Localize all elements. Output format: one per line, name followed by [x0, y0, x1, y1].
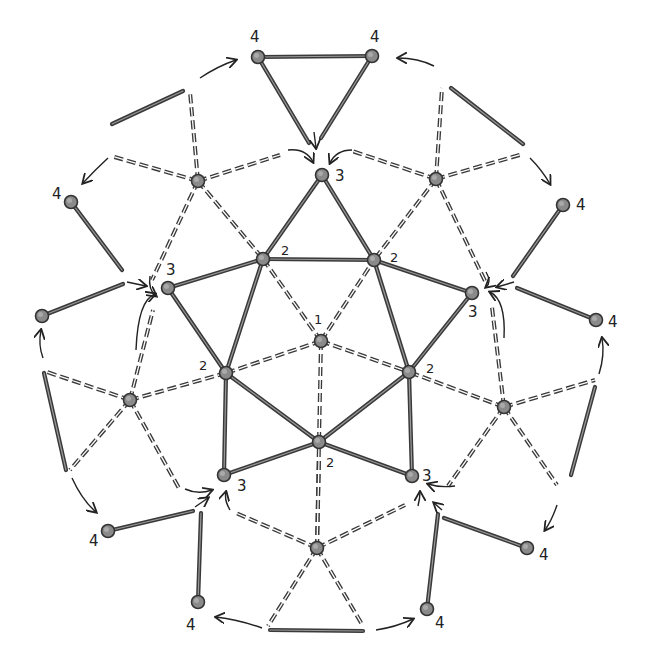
solid-edge: [451, 88, 523, 144]
node-label: 3: [468, 303, 478, 321]
dashed-edge: [317, 460, 319, 548]
curved-arrow-icon: [599, 338, 603, 374]
node-highlight: [468, 289, 473, 294]
curved-arrow-icon: [216, 617, 262, 628]
solid-edge: [427, 514, 438, 609]
curved-arrow-icon: [83, 158, 108, 183]
node-label: 1: [314, 312, 322, 327]
curved-arrow-icon: [398, 58, 434, 66]
dashed-edge: [236, 513, 317, 548]
solid-edge: [258, 57, 309, 143]
curved-arrow-icon: [195, 498, 208, 507]
curved-arrow-icon: [376, 619, 413, 630]
solid-edge: [270, 630, 363, 631]
solid-edge: [226, 259, 263, 373]
dashed-edge: [436, 179, 486, 283]
node-label: 2: [199, 358, 207, 373]
node-highlight: [222, 369, 227, 374]
curved-arrow-icon: [418, 492, 420, 506]
node-highlight: [194, 598, 199, 603]
node-highlight: [318, 171, 323, 176]
node-highlight: [317, 337, 322, 342]
node-highlight: [370, 256, 375, 261]
curved-arrow-icon: [497, 282, 514, 287]
node-label: 3: [422, 467, 432, 485]
dashed-edge: [130, 310, 153, 400]
node-label: 2: [281, 243, 289, 258]
node-label: 4: [250, 28, 260, 46]
dashed-edge: [263, 259, 321, 341]
node-highlight: [592, 316, 597, 321]
solid-edge: [409, 372, 412, 476]
curved-arrow-icon: [434, 503, 442, 510]
solid-edge: [258, 56, 372, 57]
node-label: 4: [576, 196, 586, 214]
dashed-edge: [44, 371, 130, 400]
dashed-edge: [409, 372, 504, 407]
solid-edge: [517, 288, 596, 320]
solid-edge: [263, 259, 374, 260]
curved-arrow-icon: [545, 505, 557, 530]
node-highlight: [220, 471, 225, 476]
node-label: 2: [390, 250, 398, 265]
node-highlight: [559, 201, 564, 206]
curved-arrow-icon: [330, 150, 352, 163]
node-label: 4: [608, 313, 618, 331]
dashed-edge: [198, 155, 280, 181]
node-highlight: [315, 438, 320, 443]
node-label: 2: [326, 455, 334, 470]
dashed-edge: [352, 151, 436, 179]
dashed-edge: [226, 341, 321, 373]
curved-arrow-icon: [288, 150, 313, 162]
solid-edge: [112, 91, 183, 124]
curved-arrow-icon: [72, 478, 96, 512]
dashed-edge: [70, 400, 130, 470]
node-highlight: [67, 198, 72, 203]
node-highlight: [104, 527, 109, 532]
solid-edge: [409, 293, 472, 372]
node-highlight: [254, 53, 259, 58]
node-highlight: [313, 544, 318, 549]
dashed-edge: [321, 260, 374, 341]
solid-edge: [513, 205, 563, 276]
curved-arrow-icon: [226, 492, 231, 510]
curved-arrow-icon: [530, 158, 550, 184]
solid-edge: [571, 387, 595, 475]
solid-edge: [319, 372, 409, 442]
dashed-edge: [317, 548, 363, 626]
node-label: 3: [237, 477, 247, 495]
node-label: 4: [370, 28, 380, 46]
node-label: 4: [435, 614, 445, 632]
dashed-edge: [317, 505, 405, 548]
solid-edge: [224, 442, 319, 475]
solid-edge: [168, 288, 226, 373]
node-label: 4: [89, 532, 99, 550]
curved-arrow-icon: [314, 132, 316, 148]
dashed-edge: [448, 407, 504, 486]
node-highlight: [408, 472, 413, 477]
node-highlight: [38, 312, 43, 317]
solid-edge: [42, 284, 123, 316]
solid-edge: [71, 202, 122, 270]
node-highlight: [126, 396, 131, 401]
dashed-edge: [268, 548, 317, 626]
dashed-edge: [130, 373, 226, 400]
node-label: 4: [186, 616, 196, 634]
dashed-edge: [111, 156, 198, 181]
node-highlight: [423, 605, 428, 610]
solid-edge: [224, 373, 226, 475]
dashed-edge: [319, 341, 321, 442]
solid-edge: [374, 260, 472, 293]
dashed-edge: [436, 154, 523, 179]
dashed-edge: [504, 380, 595, 407]
node-label: 3: [166, 261, 176, 279]
solid-edge: [226, 373, 319, 442]
node-label: 2: [426, 361, 434, 376]
dashed-edge: [198, 181, 263, 259]
dashed-edge: [321, 341, 409, 372]
node-label: 4: [52, 185, 62, 203]
solid-edge: [44, 373, 66, 470]
solid-edge: [108, 511, 193, 531]
solid-edge: [322, 175, 374, 260]
solid-edge: [263, 175, 322, 259]
